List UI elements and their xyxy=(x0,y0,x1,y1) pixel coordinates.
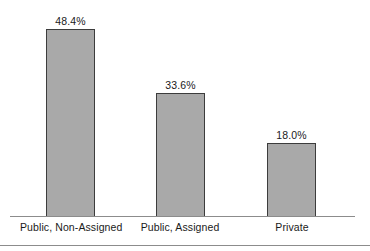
bar-value-label: 33.6% xyxy=(165,79,195,91)
bar-rect-public-non-assigned xyxy=(46,29,95,217)
bottom-divider-rule xyxy=(0,245,370,246)
bar-rect-public-assigned xyxy=(156,93,205,217)
bar-rect-private xyxy=(267,143,316,217)
bar-group-public-assigned: 33.6% xyxy=(156,93,205,217)
bar-group-public-non-assigned: 48.4% xyxy=(46,29,95,217)
plot-area: 48.4% 33.6% 18.0% xyxy=(0,0,370,217)
bar-value-label: 48.4% xyxy=(55,15,85,27)
x-axis-tick-labels: Public, Non-Assigned Public, Assigned Pr… xyxy=(0,221,370,239)
x-tick-label-public-assigned: Public, Assigned xyxy=(134,221,226,233)
x-tick-label-public-non-assigned: Public, Non-Assigned xyxy=(20,221,122,233)
x-tick-label-private: Private xyxy=(253,221,331,233)
bar-chart-figure: 48.4% 33.6% 18.0% Public, Non-Assigned P… xyxy=(0,0,370,251)
bar-value-label: 18.0% xyxy=(276,129,306,141)
x-axis-line xyxy=(10,216,355,217)
bar-group-private: 18.0% xyxy=(267,143,316,217)
